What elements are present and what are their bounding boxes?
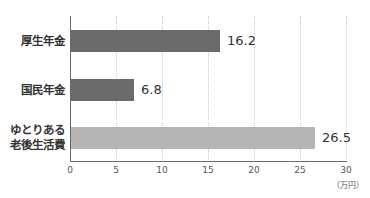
x-tick: 5 [113, 165, 119, 175]
category-label: ゆとりある 老後生活費 [10, 123, 65, 153]
bar-kokumin-nenkin [71, 79, 134, 101]
x-tick: 15 [202, 165, 213, 175]
category-label: 国民年金 [21, 83, 65, 98]
x-tick: 30 [340, 165, 351, 175]
bar-yutori-rougo [71, 127, 315, 149]
x-tick: 20 [248, 165, 259, 175]
x-tick: 25 [294, 165, 305, 175]
x-tick: 10 [156, 165, 167, 175]
x-tick: 0 [67, 165, 73, 175]
category-label: 厚生年金 [21, 34, 65, 49]
x-axis [70, 161, 347, 162]
value-label: 16.2 [227, 30, 256, 52]
plot-area: 16.2 6.8 26.5 [70, 16, 347, 162]
bar-kosei-nenkin [71, 30, 220, 52]
value-label: 26.5 [322, 127, 351, 149]
unit-label: （万円） [332, 179, 364, 190]
y-axis [70, 16, 71, 162]
value-label: 6.8 [141, 79, 162, 101]
